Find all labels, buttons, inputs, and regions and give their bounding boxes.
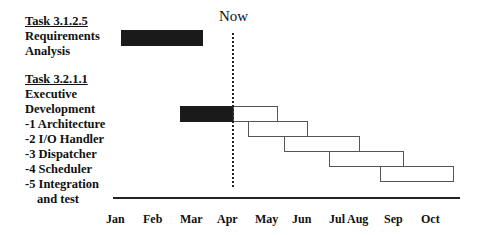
month-mar: Mar [180,212,203,227]
x-axis-line [113,197,460,199]
month-jan: Jan [106,212,125,227]
month-oct: Oct [421,212,440,227]
bar-integration [380,166,454,182]
bar-io-handler [248,121,308,137]
month-jun: Jun [292,212,311,227]
task-label-scheduler: -4 Scheduler [25,162,92,177]
group2-title-line1: Executive [25,87,77,102]
month-jul: Jul [329,212,345,227]
month-may: May [255,212,278,227]
task-label-io-handler: -2 I/O Handler [25,132,104,147]
bar-architecture-done [180,106,234,122]
group2-title-line2: Development [25,102,95,117]
month-feb: Feb [143,212,162,227]
group1-title-line1: Requirements [25,29,100,44]
task-label-architecture: -1 Architecture [25,117,105,132]
bar-dispatcher [284,136,360,152]
bar-architecture-remaining [233,106,278,122]
bar-requirements [121,30,203,46]
group2-header: Task 3.2.1.1 [25,72,88,87]
group1-title-line2: Analysis [25,44,70,59]
group1-header: Task 3.1.2.5 [25,14,88,29]
task-label-integration-cont: and test [37,192,79,207]
bar-scheduler [329,151,404,167]
month-aug: Aug [347,212,368,227]
task-label-dispatcher: -3 Dispatcher [25,147,97,162]
month-apr: Apr [217,212,238,227]
month-sep: Sep [384,212,403,227]
now-label: Now [219,8,248,25]
task-label-integration: -5 Integration [25,177,99,192]
now-marker-line [232,33,234,187]
